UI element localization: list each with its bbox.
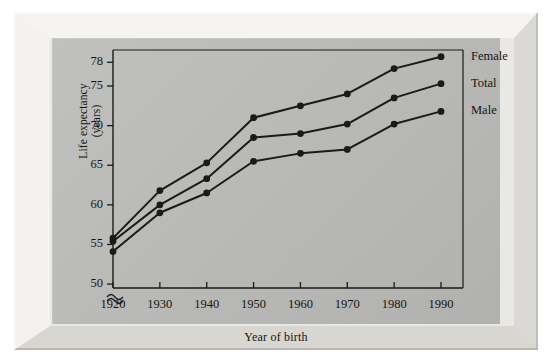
data-point-male bbox=[250, 158, 257, 165]
data-point-total bbox=[156, 201, 163, 208]
series-line-total bbox=[113, 84, 441, 242]
plot-canvas bbox=[0, 0, 552, 362]
data-point-male bbox=[391, 121, 398, 128]
data-point-total bbox=[344, 121, 351, 128]
data-point-total bbox=[110, 238, 117, 245]
data-point-male bbox=[110, 248, 117, 255]
data-point-male bbox=[297, 150, 304, 157]
data-point-female bbox=[297, 102, 304, 109]
data-point-male bbox=[438, 108, 445, 115]
data-point-female bbox=[156, 187, 163, 194]
data-point-female bbox=[391, 65, 398, 72]
data-point-total bbox=[250, 134, 257, 141]
data-point-female bbox=[438, 53, 445, 60]
data-point-total bbox=[203, 175, 210, 182]
data-point-female bbox=[203, 159, 210, 166]
data-point-total bbox=[391, 95, 398, 102]
data-point-female bbox=[344, 91, 351, 98]
data-point-male bbox=[156, 209, 163, 216]
data-point-male bbox=[344, 146, 351, 153]
data-point-total bbox=[297, 130, 304, 137]
chart-figure: Life expectancy (years) Year of birth 50… bbox=[0, 0, 552, 362]
series-line-male bbox=[113, 111, 441, 251]
data-point-female bbox=[250, 114, 257, 121]
data-point-male bbox=[203, 190, 210, 197]
data-point-total bbox=[438, 80, 445, 87]
